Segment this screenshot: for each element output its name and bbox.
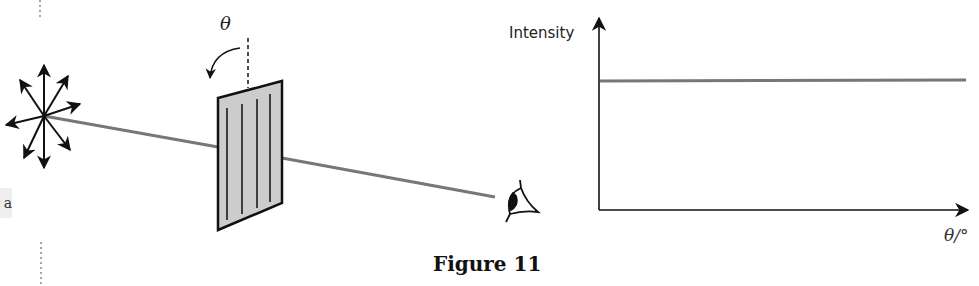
eye-icon [506, 180, 538, 222]
y-axis-label: Intensity [509, 24, 574, 42]
rotation-arrow-icon [210, 48, 240, 78]
theta-label: θ [220, 13, 231, 34]
figure-caption: Figure 11 [433, 252, 541, 276]
unpolarised-light-source-icon [6, 65, 80, 168]
intensity-line [600, 80, 966, 81]
intensity-graph [599, 18, 968, 210]
polariser [210, 38, 282, 230]
x-axis-label: θ/° [944, 225, 968, 245]
figure-canvas: θ Intensity θ/° [0, 0, 979, 286]
